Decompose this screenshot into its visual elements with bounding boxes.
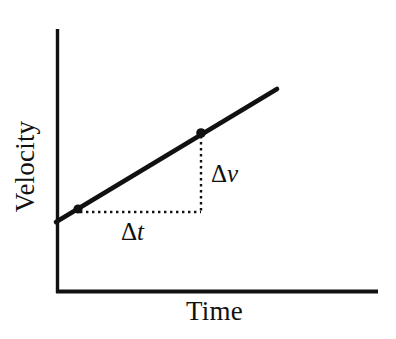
velocity-time-graph-figure: Velocity Time Δv Δt [0, 0, 396, 339]
data-point-marker-1 [73, 204, 82, 213]
delta-symbol-v: Δ [211, 160, 227, 187]
delta-symbol-t: Δ [121, 218, 137, 245]
x-axis-label: Time [186, 296, 243, 327]
y-axis-label: Velocity [0, 96, 52, 236]
delta-t-variable: t [137, 218, 144, 245]
y-axis-label-text: Velocity [11, 120, 42, 212]
plot-canvas [0, 0, 396, 339]
delta-t-label: Δt [121, 218, 144, 246]
delta-v-label: Δv [211, 160, 238, 188]
figure-background [0, 0, 396, 339]
data-point-marker-2 [196, 128, 206, 138]
delta-v-variable: v [227, 160, 238, 187]
